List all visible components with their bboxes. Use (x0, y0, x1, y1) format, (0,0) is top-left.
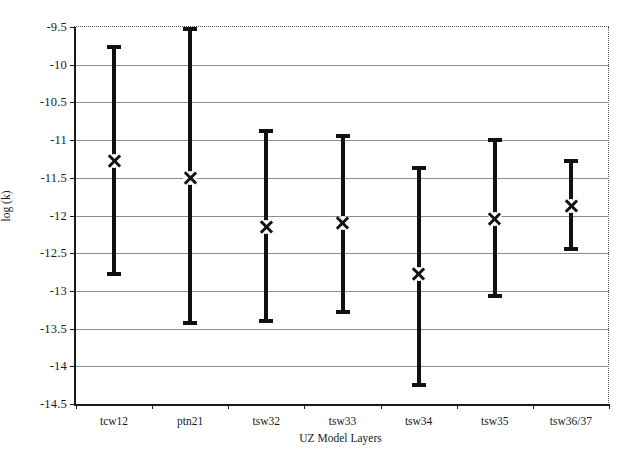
y-axis-tick (70, 102, 76, 103)
y-axis-label: -13.5 (40, 321, 67, 336)
x-axis-label: tsw33 (329, 415, 356, 427)
y-axis-label: -11 (50, 133, 67, 148)
x-axis-label: tcw12 (100, 415, 128, 427)
gridline (76, 366, 609, 367)
x-axis-tick (609, 404, 610, 409)
x-axis-title: UZ Model Layers (74, 432, 607, 444)
y-axis-tick (70, 65, 76, 66)
x-axis-tick (533, 404, 534, 409)
data-point-marker-x (411, 266, 427, 282)
data-point-marker-x (335, 215, 351, 231)
error-bar-cap-upper (107, 45, 121, 49)
y-axis-label: -10.5 (40, 95, 67, 110)
gridline (76, 329, 609, 330)
gridline (76, 102, 609, 103)
error-bar-cap-upper (336, 134, 350, 138)
x-axis-label: tsw32 (253, 415, 280, 427)
x-axis-label: tsw35 (481, 415, 508, 427)
data-point-marker-x (563, 198, 579, 214)
y-axis-tick (70, 291, 76, 292)
x-axis-tick (457, 404, 458, 409)
plot-area: -9.5-10-10.5-11-11.5-12-12.5-13-13.5-14-… (74, 27, 609, 406)
error-bar-cap-lower (564, 247, 578, 251)
y-axis-label: -12.5 (40, 246, 67, 261)
data-point-marker-x (258, 219, 274, 235)
gridline (76, 65, 609, 66)
y-axis-tick (70, 140, 76, 141)
error-bar-cap-upper (412, 166, 426, 170)
y-axis-label: -14 (50, 359, 67, 374)
y-axis-label: -13 (50, 283, 67, 298)
x-axis-tick (228, 404, 229, 409)
y-axis-label: -14.5 (40, 397, 67, 412)
x-axis-tick (152, 404, 153, 409)
error-bar-cap-upper (183, 27, 197, 31)
error-bar-cap-lower (183, 321, 197, 325)
error-bar-cap-upper (564, 159, 578, 163)
x-axis-tick (304, 404, 305, 409)
error-bar-cap-upper (259, 129, 273, 133)
x-axis-tick (76, 404, 77, 409)
y-axis-tick (70, 329, 76, 330)
data-point-marker-x (182, 170, 198, 186)
x-axis-tick (381, 404, 382, 409)
y-axis-title: log (k) (0, 191, 12, 222)
error-bar-cap-lower (412, 383, 426, 387)
error-bar-cap-lower (336, 310, 350, 314)
error-bar-cap-lower (107, 272, 121, 276)
y-axis-label: -12 (50, 208, 67, 223)
x-axis-label: ptn21 (177, 415, 203, 427)
y-axis-tick (70, 253, 76, 254)
data-point-marker-x (106, 153, 122, 169)
x-axis-label: tsw34 (405, 415, 432, 427)
y-axis-tick (70, 27, 76, 28)
data-point-marker-x (487, 211, 503, 227)
x-axis-label: tsw36/37 (550, 415, 592, 427)
y-axis-label: -9.5 (46, 20, 67, 35)
error-bar-cap-lower (488, 294, 502, 298)
y-axis-label: -11.5 (40, 170, 67, 185)
y-axis-tick (70, 178, 76, 179)
y-axis-label: -10 (50, 57, 67, 72)
error-bar-cap-upper (488, 138, 502, 142)
error-bar-cap-lower (259, 319, 273, 323)
y-axis-tick (70, 216, 76, 217)
y-axis-tick (70, 366, 76, 367)
error-bar-chart: log (k) -9.5-10-10.5-11-11.5-12-12.5-13-… (0, 0, 632, 452)
